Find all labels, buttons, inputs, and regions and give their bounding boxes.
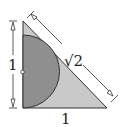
center-point: [21, 70, 25, 74]
horizontal-leg-label: 1: [61, 110, 71, 127]
vertical-leg-label: 1: [8, 56, 18, 74]
hypotenuse-label: √2: [64, 52, 83, 70]
geometry-diagram: 1 1 √2: [0, 0, 125, 127]
